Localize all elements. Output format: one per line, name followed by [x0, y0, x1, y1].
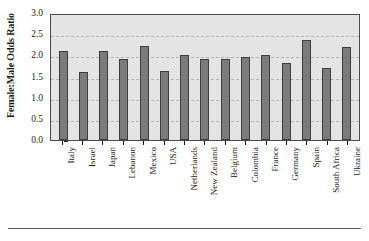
x-axis-tick-label: Israel — [87, 147, 96, 167]
bar — [119, 59, 128, 140]
x-axis-label-slot: Spain — [302, 147, 311, 217]
bar — [241, 57, 250, 140]
x-axis-tick-mark — [262, 141, 271, 146]
x-axis-label-slot: France — [262, 147, 271, 217]
x-axis-label-slot: Colombia — [241, 147, 250, 217]
x-axis-tick-mark — [160, 141, 169, 146]
x-axis-label-slot: Israel — [78, 147, 87, 217]
x-axis-label-slot: South Africa — [323, 147, 332, 217]
x-axis-tick-mark — [200, 141, 209, 146]
y-axis-tick-labels: 0.00.51.01.52.02.53.0 — [18, 14, 46, 141]
x-axis-tick-mark — [323, 141, 332, 146]
y-axis-title-container: Female:Male Odds Ratio — [0, 0, 18, 150]
y-axis-tick-label: 1.5 — [31, 73, 43, 83]
bar — [200, 59, 209, 140]
x-axis-label-slot: Italy — [58, 147, 67, 217]
x-axis-tick-label: Italy — [67, 147, 76, 164]
x-axis-tick-mark — [139, 141, 148, 146]
x-axis-tick-label: Japan — [107, 147, 116, 168]
x-axis-tick-label: Belgium — [230, 147, 239, 178]
x-axis-tick-mark — [221, 141, 230, 146]
y-axis-tick-label: 0.0 — [31, 136, 43, 146]
x-axis-tick-marks — [50, 141, 360, 146]
x-axis-tick-mark — [98, 141, 107, 146]
x-axis-tick-mark — [343, 141, 352, 146]
x-axis-tick-mark — [119, 141, 128, 146]
x-axis-tick-label: Germany — [291, 147, 300, 181]
bar — [302, 40, 311, 140]
x-axis-tick-mark — [78, 141, 87, 146]
x-axis-tick-mark — [282, 141, 291, 146]
x-axis-label-slot: Belgium — [221, 147, 230, 217]
x-axis-tick-mark — [180, 141, 189, 146]
plot-area — [50, 14, 360, 141]
bar — [99, 51, 108, 140]
bar — [140, 46, 149, 140]
x-axis-tick-label: Mexico — [148, 147, 157, 175]
y-axis-tick-label: 0.5 — [31, 115, 43, 125]
x-axis-tick-label: France — [271, 147, 280, 172]
chart-figure: Female:Male Odds Ratio 0.00.51.01.52.02.… — [0, 0, 369, 241]
y-axis-tick-label: 2.0 — [31, 52, 43, 62]
x-axis-tick-label: Colombia — [250, 147, 259, 183]
x-axis-label-slot: Germany — [282, 147, 291, 217]
x-axis-label-slot: Lebanon — [119, 147, 128, 217]
x-axis-tick-labels: ItalyIsraelJapanLebanonMexicoUSANetherla… — [50, 147, 360, 217]
bar — [282, 63, 291, 140]
x-axis-label-slot: Netherlands — [180, 147, 189, 217]
bar — [342, 47, 351, 140]
x-axis-label-slot: New Zealand — [200, 147, 209, 217]
x-axis-tick-label: Netherlands — [189, 147, 198, 190]
bar — [221, 59, 230, 140]
bar — [160, 71, 169, 140]
bar — [322, 68, 331, 140]
bottom-divider — [8, 228, 361, 229]
y-axis-tick-label: 1.0 — [31, 94, 43, 104]
x-axis-tick-label: USA — [169, 147, 178, 165]
y-axis-title: Female:Male Odds Ratio — [5, 3, 16, 129]
x-axis-tick-label: South Africa — [332, 147, 341, 193]
y-axis-tick-label: 2.5 — [31, 30, 43, 40]
x-axis-tick-label: Lebanon — [128, 147, 137, 179]
x-axis-label-slot: Japan — [98, 147, 107, 217]
x-axis-tick-label: New Zealand — [209, 147, 218, 195]
bar — [180, 55, 189, 140]
x-axis-label-slot: USA — [160, 147, 169, 217]
x-axis-tick-mark — [58, 141, 67, 146]
x-axis-label-slot: Mexico — [139, 147, 148, 217]
x-axis-tick-mark — [241, 141, 250, 146]
x-axis-tick-mark — [302, 141, 311, 146]
x-axis-tick-label: Spain — [311, 147, 320, 168]
bar — [59, 51, 68, 140]
bar — [261, 55, 270, 141]
x-axis-label-slot: Ukraine — [343, 147, 352, 217]
x-axis-tick-label: Ukraine — [352, 147, 361, 176]
y-axis-tick-label: 3.0 — [31, 9, 43, 19]
bar — [79, 72, 88, 140]
bar-series — [51, 15, 359, 140]
